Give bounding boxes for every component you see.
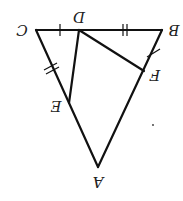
label-b: B bbox=[168, 21, 180, 39]
label-a: A bbox=[92, 173, 105, 191]
label-e: E bbox=[50, 97, 62, 115]
segment-df bbox=[79, 30, 144, 71]
side-ab bbox=[98, 30, 162, 167]
label-f: F bbox=[149, 66, 161, 84]
label-d: D bbox=[73, 8, 86, 26]
segment-de bbox=[69, 30, 79, 103]
geometry-diagram: C D B F E A bbox=[0, 0, 183, 201]
label-c: C bbox=[16, 21, 28, 39]
dot-mark bbox=[152, 124, 154, 126]
side-ca bbox=[36, 30, 98, 167]
